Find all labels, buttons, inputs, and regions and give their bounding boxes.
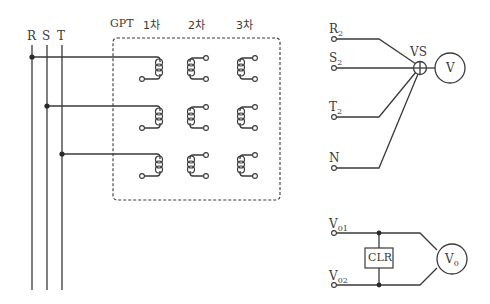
terminal-label-v01: V01 bbox=[329, 218, 348, 235]
secondary-coils bbox=[188, 59, 195, 173]
gpt-circuit-diagram: R S T GPT 1차 2차 3차 R2 S2 T2 N VS V V01 V… bbox=[0, 0, 490, 304]
terminal-label-v02: V02 bbox=[329, 270, 348, 287]
terminal-label-n: N bbox=[329, 152, 340, 169]
bus-label-s: S bbox=[42, 30, 50, 42]
voltmeter-switch-icon bbox=[414, 62, 427, 75]
feed-t bbox=[62, 154, 160, 159]
terminal-label-t2: T2 bbox=[329, 101, 342, 118]
junction-t bbox=[59, 151, 64, 156]
wire-r2 bbox=[336, 39, 416, 64]
primary-coils bbox=[156, 59, 163, 173]
zero-voltmeter-label: V0 bbox=[445, 253, 459, 270]
terminal-label-r2: R2 bbox=[329, 23, 343, 40]
wire-n bbox=[336, 74, 418, 168]
junction-s bbox=[44, 103, 49, 108]
junction-r bbox=[29, 54, 34, 59]
wire-t2 bbox=[336, 72, 416, 117]
gpt-col-tertiary: 3차 bbox=[236, 20, 253, 32]
voltmeter-label: V bbox=[446, 62, 455, 74]
bus-label-r: R bbox=[27, 30, 36, 42]
feed-r bbox=[32, 57, 160, 62]
bus-label-t: T bbox=[57, 30, 65, 42]
feed-s bbox=[47, 106, 160, 111]
gpt-col-secondary: 2차 bbox=[188, 20, 205, 32]
gpt-label: GPT bbox=[110, 18, 134, 30]
vs-label: VS bbox=[410, 46, 427, 58]
terminal-label-s2: S2 bbox=[329, 52, 342, 69]
wire-v02 bbox=[336, 268, 437, 285]
tertiary-coils bbox=[238, 59, 245, 173]
gpt-col-primary: 1차 bbox=[143, 20, 160, 32]
clr-label: CLR bbox=[368, 252, 392, 264]
